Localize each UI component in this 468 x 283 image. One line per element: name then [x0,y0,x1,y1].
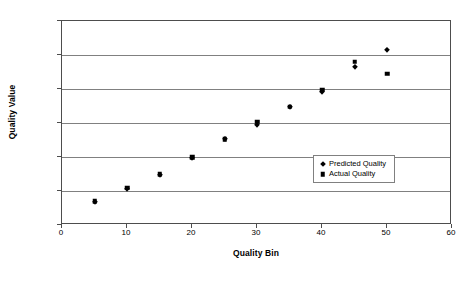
data-point-square [222,137,227,142]
y-axis-title: Quality Value [2,0,22,224]
legend-label-predicted-quality: Predicted Quality [329,159,386,169]
x-axis-tick-label: 50 [366,228,406,237]
gridline [62,89,450,90]
legend-item-predicted-quality: Predicted Quality [318,159,390,169]
data-point-square [352,60,357,65]
y-axis-tick-mark [57,88,61,89]
y-axis-tick-mark [57,20,61,21]
x-axis-tick-mark [256,224,257,228]
chart-legend: Predicted Quality Actual Quality [313,155,395,183]
data-point-square [190,155,195,160]
x-axis-title: Quality Bin [61,248,451,258]
data-point-square [255,120,260,125]
x-axis-tick-mark [451,224,452,228]
diamond-marker-icon [318,160,327,169]
legend-label-actual-quality: Actual Quality [329,169,375,179]
data-point-square [385,71,390,76]
y-axis-tick-mark [57,156,61,157]
x-axis-tick-mark [61,224,62,228]
x-axis-tick-mark [386,224,387,228]
scatter-chart: Quality Value Quality Bin Predicted Qual… [0,0,468,283]
x-axis-tick-label: 20 [171,228,211,237]
x-axis-tick-label: 10 [106,228,146,237]
legend-item-actual-quality: Actual Quality [318,169,390,179]
x-axis-tick-label: 40 [301,228,341,237]
data-point-square [92,199,97,204]
data-point-diamond [352,64,358,70]
data-point-square [157,172,162,177]
y-axis-tick-mark [57,190,61,191]
x-axis-tick-mark [126,224,127,228]
gridline [62,55,450,56]
data-point-square [320,87,325,92]
x-axis-tick-label: 60 [431,228,468,237]
y-axis-tick-mark [57,122,61,123]
data-point-diamond [384,47,390,53]
y-axis-title-label: Quality Value [7,85,17,140]
square-marker-icon [318,170,327,179]
plot-area [61,20,451,224]
y-axis-tick-mark [57,54,61,55]
x-axis-tick-mark [191,224,192,228]
gridline [62,191,450,192]
x-axis-tick-mark [321,224,322,228]
x-axis-tick-label: 0 [41,228,81,237]
data-point-square [125,185,130,190]
data-point-square [287,104,292,109]
x-axis-tick-label: 30 [236,228,276,237]
